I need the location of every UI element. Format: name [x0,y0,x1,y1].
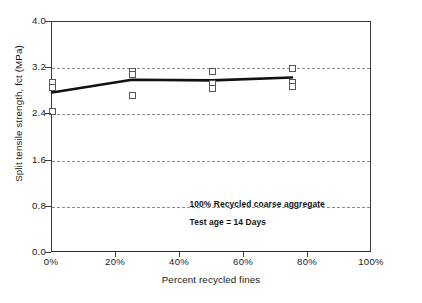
x-tick-label: 60% [218,256,268,267]
trend-polyline [52,77,292,92]
plot-area: 100% Recycled coarse aggregateTest age =… [51,21,371,252]
y-tick-label: 0.8 [2,201,46,211]
x-tick-mark [243,252,244,257]
x-tick-label: 40% [154,256,204,267]
y-tick-mark [45,67,51,68]
chart-figure: Split tensile strength, fct (MPa) 100% R… [0,0,422,303]
y-tick-label: 2.4 [2,109,46,119]
x-axis-title: Percent recycled fines [0,274,422,285]
gridline [52,161,370,162]
x-tick-mark [115,252,116,257]
y-tick-mark [45,206,51,207]
figure-caption [0,291,422,303]
data-point-marker [129,92,136,99]
x-tick-mark [179,252,180,257]
chart-annotation: Test age = 14 Days [190,217,266,227]
y-tick-label: 1.6 [2,155,46,165]
data-point-marker [289,83,296,90]
gridline [52,114,370,115]
data-point-marker [209,85,216,92]
data-point-marker [209,68,216,75]
y-tick-label: 4.0 [2,16,46,26]
x-tick-label: 80% [282,256,332,267]
y-tick-label: 3.2 [2,62,46,72]
y-tick-mark [45,21,51,22]
x-tick-label: 100% [346,256,396,267]
data-point-marker [289,65,296,72]
y-tick-mark [45,113,51,114]
x-tick-mark [307,252,308,257]
data-point-marker [129,71,136,78]
data-point-marker [49,84,56,91]
x-tick-label: 20% [90,256,140,267]
x-tick-label: 0% [26,256,76,267]
chart-annotation: 100% Recycled coarse aggregate [190,199,325,209]
y-tick-mark [45,252,51,253]
y-tick-mark [45,160,51,161]
